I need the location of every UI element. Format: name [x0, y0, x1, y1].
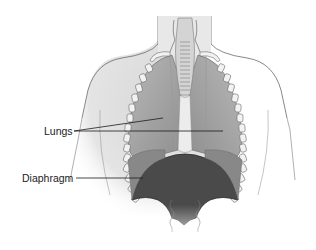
label-diaphragm: Diaphragm: [22, 172, 73, 184]
right-lung: [188, 55, 242, 160]
label-lungs: Lungs: [44, 125, 73, 137]
anatomy-figure: Lungs Diaphragm: [0, 0, 316, 250]
mediastinum: [178, 95, 192, 153]
